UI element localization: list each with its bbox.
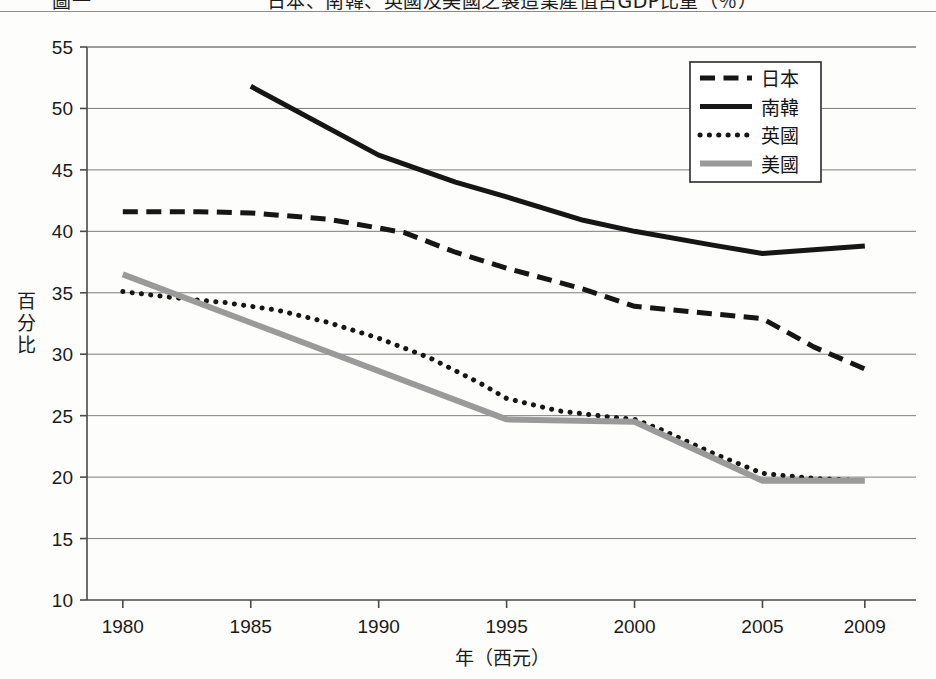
y-tick-label-25: 25 <box>52 406 73 427</box>
y-tick-label-15: 15 <box>52 529 73 550</box>
x-tick-label-2000: 2000 <box>613 616 655 637</box>
y-tick-label-10: 10 <box>52 590 73 611</box>
legend-label-3: 美國 <box>761 154 799 176</box>
x-tick-label-1990: 1990 <box>358 616 400 637</box>
figure-page: 圖一 日本、南韓、英國及美國之製造業產值占GDP比重（％） 1015202530… <box>0 0 936 679</box>
x-axis-title: 年（西元） <box>455 647 550 669</box>
y-tick-label-40: 40 <box>52 221 73 242</box>
x-tick-label-1985: 1985 <box>230 616 272 637</box>
legend-label-0: 日本 <box>761 68 799 90</box>
y-axis-title: 百分比 <box>17 290 36 356</box>
y-tick-label-50: 50 <box>52 98 73 119</box>
series-line-0 <box>123 212 865 369</box>
y-tick-label-45: 45 <box>52 160 73 181</box>
legend-label-1: 南韓 <box>761 97 799 119</box>
y-tick-label-55: 55 <box>52 37 73 58</box>
chart-legend: 日本南韓英國美國 <box>690 62 821 182</box>
y-tick-label-20: 20 <box>52 467 73 488</box>
y-axis-tick-labels: 10152025303540455055 <box>52 37 73 611</box>
x-tick-label-1995: 1995 <box>485 616 527 637</box>
line-chart: 10152025303540455055 1980198519901995200… <box>0 0 936 679</box>
x-tick-label-2009: 2009 <box>844 616 886 637</box>
x-tick-label-2005: 2005 <box>741 616 783 637</box>
legend-label-2: 英國 <box>761 125 799 147</box>
y-tick-label-30: 30 <box>52 344 73 365</box>
y-tick-label-35: 35 <box>52 283 73 304</box>
x-tick-label-1980: 1980 <box>102 616 144 637</box>
x-axis-tick-labels: 1980198519901995200020052009 <box>102 616 886 637</box>
